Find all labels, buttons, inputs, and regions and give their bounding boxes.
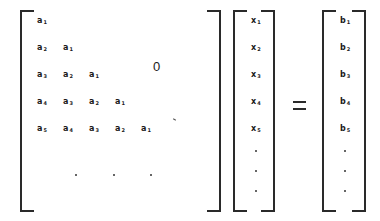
vector-entry: b4 — [340, 98, 350, 106]
matrix-entry: a3 — [37, 71, 47, 79]
upper-zero-label: 0 — [153, 59, 160, 74]
vector-continuation-dot — [255, 190, 257, 192]
vector-continuation-dot — [344, 190, 346, 192]
matrix-entry: a3 — [89, 125, 99, 133]
vector-entry: b5 — [340, 125, 350, 133]
diagonal-continuation-mark — [173, 118, 176, 120]
vector-entry: b3 — [340, 71, 350, 79]
matrix-entry: a5 — [37, 125, 47, 133]
matrix-entry: a3 — [63, 98, 73, 106]
vector-entry: b1 — [340, 17, 350, 25]
matrix-right-bracket — [207, 10, 221, 212]
vector-entry: b2 — [340, 44, 350, 52]
matrix-entry: a1 — [89, 71, 99, 79]
vector-entry: x5 — [251, 125, 261, 133]
matrix-entry: a2 — [63, 71, 73, 79]
b-vector-left-bracket — [322, 10, 336, 212]
continuation-dot — [75, 174, 77, 176]
vector-entry: x2 — [251, 44, 261, 52]
vector-continuation-dot — [344, 170, 346, 172]
continuation-dot — [113, 174, 115, 176]
vector-continuation-dot — [255, 170, 257, 172]
x-vector-left-bracket — [233, 10, 247, 212]
matrix-left-bracket — [20, 10, 34, 212]
matrix-entry: a1 — [37, 17, 47, 25]
vector-continuation-dot — [255, 150, 257, 152]
b-vector-right-bracket — [352, 10, 366, 212]
continuation-dot — [150, 174, 152, 176]
matrix-entry: a1 — [141, 125, 151, 133]
matrix-entry: a2 — [89, 98, 99, 106]
vector-entry: x1 — [251, 17, 261, 25]
matrix-entry: a4 — [63, 125, 73, 133]
equals-sign-bottom — [293, 108, 306, 110]
equals-sign-top — [293, 101, 306, 103]
vector-continuation-dot — [344, 150, 346, 152]
matrix-entry: a4 — [37, 98, 47, 106]
x-vector-right-bracket — [261, 10, 275, 212]
matrix-entry: a1 — [63, 44, 73, 52]
matrix-entry: a2 — [115, 125, 125, 133]
vector-entry: x3 — [251, 71, 261, 79]
matrix-entry: a1 — [115, 98, 125, 106]
matrix-entry: a2 — [37, 44, 47, 52]
vector-entry: x4 — [251, 98, 261, 106]
